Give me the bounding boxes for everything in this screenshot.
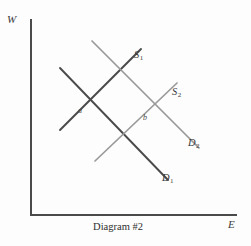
y-axis-label: W xyxy=(7,14,16,25)
figure-caption: Diagram #2 xyxy=(0,222,236,233)
curve-label-s1-base: S xyxy=(134,49,139,60)
diagram-figure: W E S1 S2 D2 D1 a b Diagram #2 xyxy=(0,0,251,246)
curve-label-d1: D1 xyxy=(162,173,173,184)
curve-d2-line xyxy=(92,41,199,148)
curve-s2-line xyxy=(95,83,177,161)
curve-label-d1-sub: 1 xyxy=(170,177,174,185)
plot-canvas xyxy=(0,0,251,246)
curve-label-d2-base: D xyxy=(188,137,196,148)
curve-d1-line xyxy=(60,68,168,180)
point-label-a: a xyxy=(78,107,82,115)
curve-label-s2-sub: 2 xyxy=(178,91,182,99)
curve-label-d1-base: D xyxy=(162,172,170,183)
curve-s1-line xyxy=(60,49,141,130)
curve-label-d2-sub: 2 xyxy=(196,142,200,150)
curve-label-d2: D2 xyxy=(188,138,199,149)
curve-label-s1: S1 xyxy=(134,50,143,61)
curve-label-s1-sub: 1 xyxy=(140,54,144,62)
point-label-b: b xyxy=(143,114,147,122)
curve-label-s2: S2 xyxy=(172,87,181,98)
curve-label-s2-base: S xyxy=(172,86,177,97)
